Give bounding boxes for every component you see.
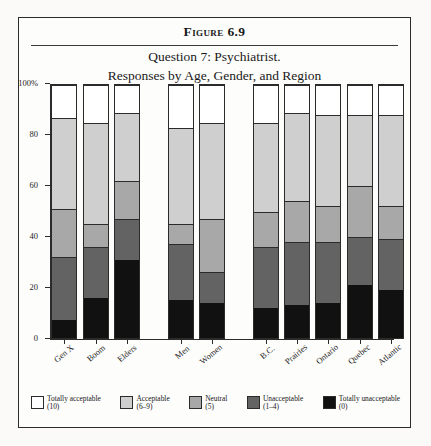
bar-segment <box>115 181 139 219</box>
bar-segment <box>200 219 224 272</box>
legend-range: (10) <box>47 403 101 411</box>
bar-prairies[interactable] <box>284 84 310 339</box>
y-axis-tick: 20 <box>45 287 50 288</box>
x-axis-label: Boom <box>85 343 107 364</box>
legend-swatch <box>189 396 202 409</box>
x-axis-tick <box>181 339 182 344</box>
y-axis-tick-label: 80 <box>30 129 39 139</box>
bar-segment <box>169 300 193 338</box>
legend-item[interactable]: Totally unacceptable(0) <box>323 395 400 411</box>
bar-segment <box>84 247 108 298</box>
bar-segment <box>200 85 224 123</box>
chart-legend: Totally acceptable(10)Acceptable(6–9)Neu… <box>31 388 400 418</box>
legend-item[interactable]: Unacceptable(1–4) <box>247 395 303 411</box>
bar-segment <box>316 303 340 338</box>
bar-quebec[interactable] <box>347 84 373 339</box>
bar-segment <box>84 224 108 247</box>
plot-area: 020406080100% Gen XBoomEldersMenWomenB.C… <box>50 84 394 339</box>
bar-segment <box>169 224 193 244</box>
x-axis-label: Atlantic <box>376 342 403 367</box>
bar-segment <box>254 308 278 338</box>
x-axis-label: Ontario <box>314 342 340 366</box>
bar-segment <box>348 85 372 115</box>
chart-title-line-2: Responses by Age, Gender, and Region <box>19 68 410 84</box>
bar-segment <box>285 305 309 338</box>
bar-segment <box>379 206 403 239</box>
bar-segment <box>200 303 224 338</box>
x-axis-label: Prairies <box>283 342 309 366</box>
x-axis-tick <box>266 339 267 344</box>
bar-boom[interactable] <box>83 84 109 339</box>
bar-segment <box>254 247 278 308</box>
x-axis-tick <box>391 339 392 344</box>
bar-segment <box>285 201 309 241</box>
bar-segment <box>84 298 108 338</box>
x-axis-label: Elders <box>115 342 138 364</box>
bar-segment <box>379 115 403 206</box>
bar-gen-x[interactable] <box>51 84 77 339</box>
legend-range: (1–4) <box>263 403 303 411</box>
x-axis-tick <box>64 339 65 344</box>
bar-segment <box>285 113 309 202</box>
legend-item[interactable]: Neutral(5) <box>189 395 227 411</box>
x-axis-tick <box>360 339 361 344</box>
bar-segment <box>254 123 278 212</box>
y-axis-tick: 80 <box>45 134 50 135</box>
legend-text: Acceptable(6–9) <box>136 395 169 411</box>
legend-range: (6–9) <box>136 403 169 411</box>
bar-segment <box>84 123 108 224</box>
y-axis-tick: 100% <box>45 83 50 84</box>
bar-segment <box>52 118 76 209</box>
bar-segment <box>348 186 372 237</box>
bar-segment <box>169 85 193 128</box>
legend-swatch <box>31 396 44 409</box>
y-axis-tick-label: 60 <box>30 180 39 190</box>
legend-swatch <box>323 396 336 409</box>
bar-segment <box>348 237 372 285</box>
bar-segment <box>316 206 340 241</box>
y-axis-tick-label: 0 <box>34 333 38 343</box>
legend-range: (5) <box>205 403 227 411</box>
legend-text: Unacceptable(1–4) <box>263 395 303 411</box>
bar-segment <box>379 239 403 290</box>
bar-segment <box>52 209 76 257</box>
legend-range: (0) <box>339 403 400 411</box>
bar-segment <box>115 85 139 113</box>
legend-item[interactable]: Acceptable(6–9) <box>120 395 169 411</box>
bar-segment <box>285 85 309 113</box>
bar-segment <box>348 115 372 186</box>
bar-atlantic[interactable] <box>378 84 404 339</box>
bar-ontario[interactable] <box>315 84 341 339</box>
bar-segment <box>200 123 224 219</box>
bar-segment <box>115 219 139 259</box>
bar-segment <box>254 212 278 247</box>
legend-label: Totally unacceptable <box>339 395 400 403</box>
bar-segment <box>169 128 193 224</box>
y-axis-tick-label: 100% <box>18 78 38 88</box>
caption-rule <box>31 45 398 46</box>
x-axis-label: Women <box>198 342 225 367</box>
legend-text: Neutral(5) <box>205 395 227 411</box>
x-axis-tick <box>96 339 97 344</box>
legend-text: Totally unacceptable(0) <box>339 395 400 411</box>
legend-swatch <box>247 396 260 409</box>
y-axis-tick: 0 <box>45 338 50 339</box>
x-axis-label: Quebec <box>345 342 371 366</box>
bar-men[interactable] <box>168 84 194 339</box>
y-axis-tick: 40 <box>45 236 50 237</box>
bar-segment <box>254 85 278 123</box>
x-axis-label: Men <box>173 343 191 361</box>
bar-segment <box>379 290 403 338</box>
bar-segment <box>115 260 139 338</box>
bar-segment <box>316 85 340 115</box>
bar-women[interactable] <box>199 84 225 339</box>
bar-segment <box>52 257 76 320</box>
x-axis-tick <box>212 339 213 344</box>
y-axis-tick-label: 20 <box>30 282 39 292</box>
bar-b-c[interactable] <box>253 84 279 339</box>
bar-elders[interactable] <box>114 84 140 339</box>
legend-text: Totally acceptable(10) <box>47 395 101 411</box>
bar-segment <box>52 320 76 338</box>
legend-item[interactable]: Totally acceptable(10) <box>31 395 101 411</box>
y-axis-tick-label: 40 <box>30 231 39 241</box>
